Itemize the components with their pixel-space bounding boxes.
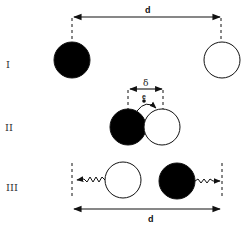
distance-d-label: d [148, 214, 154, 224]
distance-d-label: d [145, 5, 151, 15]
stage-i: I d [6, 5, 240, 78]
filled-particle [110, 109, 146, 145]
stage-ii: II δ e [5, 78, 180, 145]
stage-ii-label: II [5, 122, 13, 133]
empty-particle [144, 109, 180, 145]
empty-particle [105, 162, 141, 198]
stage-iii-label: III [6, 182, 18, 193]
stage-i-label: I [6, 59, 10, 70]
empty-particle [204, 42, 240, 78]
filled-particle [54, 42, 90, 78]
delta-label: δ [143, 78, 148, 88]
electron-transfer-arrow [137, 104, 156, 111]
charge-transfer-diagram: I d II δ e III d [0, 0, 244, 225]
electron-label: e [142, 93, 146, 100]
filled-particle [159, 163, 195, 199]
spring-force-right [195, 179, 220, 183]
spring-force-left [77, 177, 105, 182]
stage-iii: III d [6, 162, 222, 224]
